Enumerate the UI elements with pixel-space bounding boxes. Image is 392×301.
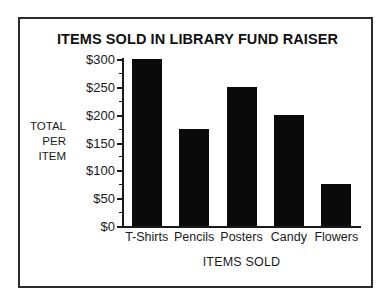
y-axis-title-line-3: ITEM [20,149,66,164]
y-tick-label: $100 [86,163,115,178]
y-tick-label: $150 [86,135,115,150]
bar[interactable] [227,87,257,226]
x-tick-label: Pencils [174,230,214,244]
plot-area: $0$50$100$150$200$250$300 [123,59,360,226]
bar-series [123,59,360,226]
x-tick-label: T-Shirts [125,230,168,244]
bar[interactable] [179,129,209,226]
y-tick-major [117,226,124,228]
y-tick-label: $200 [86,107,115,122]
x-axis-title: ITEMS SOLD [123,255,360,269]
chart-figure: ITEMS SOLD IN LIBRARY FUND RAISER TOTAL … [18,17,373,288]
y-axis-title-line-1: TOTAL [20,119,66,134]
bar[interactable] [274,115,304,226]
x-tick-label: Posters [220,230,262,244]
x-tick-label: Candy [271,230,307,244]
y-axis-title-line-2: PER [20,134,66,149]
bar[interactable] [132,59,162,226]
bar[interactable] [321,184,351,226]
y-tick-label: $250 [86,79,115,94]
x-axis-category-labels: T-ShirtsPencilsPostersCandyFlowers [123,230,360,250]
y-tick-label: $50 [93,191,115,206]
y-tick-label: $300 [86,52,115,67]
y-tick-label: $0 [101,219,115,234]
x-tick-label: Flowers [314,230,358,244]
x-axis-line [122,226,361,228]
chart-title: ITEMS SOLD IN LIBRARY FUND RAISER [20,31,375,47]
y-axis-title: TOTAL PER ITEM [20,119,66,164]
